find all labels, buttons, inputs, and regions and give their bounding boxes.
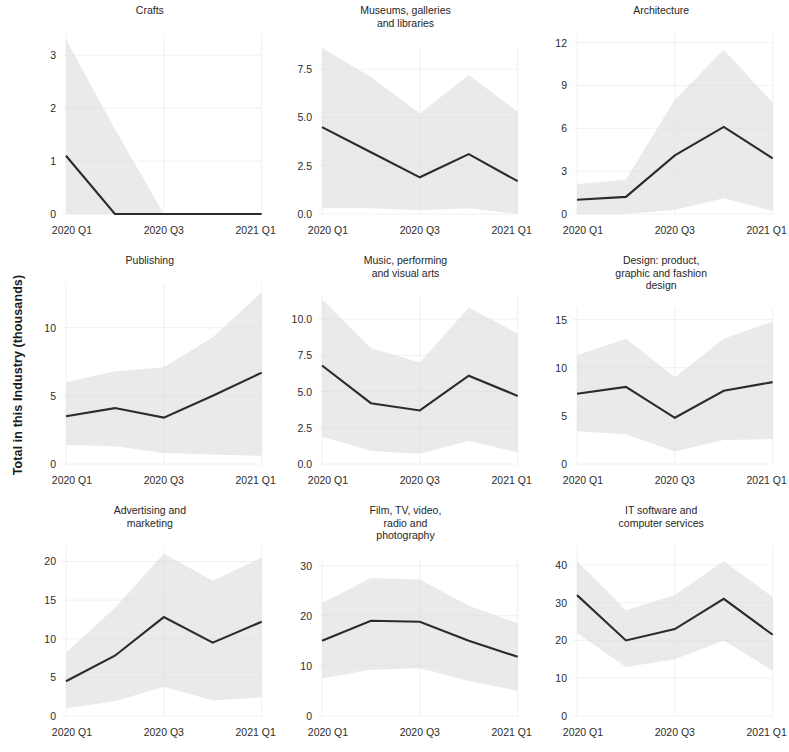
panel-plot: 0369122020 Q12020 Q32021 Q1 [533, 0, 789, 250]
x-tick-label: 2020 Q3 [144, 475, 184, 486]
chart-panel: Advertising and marketing051015202020 Q1… [22, 500, 278, 752]
panel-plot: 051015202020 Q12020 Q32021 Q1 [22, 500, 278, 752]
y-tick-label: 12 [556, 37, 568, 49]
x-tick-label: 2020 Q1 [52, 727, 92, 738]
chart-panel: Crafts01232020 Q12020 Q32021 Q1 [22, 0, 278, 250]
x-tick-label: 2021 Q1 [236, 225, 276, 236]
x-tick-label: 2020 Q3 [655, 726, 695, 738]
y-tick-label: 40 [556, 559, 568, 571]
x-tick-label: 2020 Q3 [399, 224, 439, 236]
y-tick-label: 0.0 [297, 458, 312, 470]
y-tick-label: 5.0 [297, 111, 312, 123]
confidence-band [66, 554, 262, 709]
panel-plot: 0510152020 Q12020 Q32021 Q1 [533, 250, 789, 500]
panel-plot: 05102020 Q12020 Q32021 Q1 [22, 250, 278, 500]
y-tick-label: 10 [556, 362, 568, 374]
x-tick-label: 2021 Q1 [491, 474, 531, 486]
chart-panel: Design: product, graphic and fashion des… [533, 250, 789, 500]
x-tick-label: 2020 Q1 [563, 726, 603, 738]
y-tick-label: 20 [44, 556, 56, 567]
y-tick-label: 0 [50, 459, 56, 470]
x-tick-label: 2020 Q1 [52, 475, 92, 486]
chart-panel: Museums, galleries and libraries0.02.55.… [278, 0, 534, 250]
y-tick-label: 2 [50, 103, 56, 114]
chart-panel: Music, performing and visual arts0.02.55… [278, 250, 534, 500]
x-tick-label: 2020 Q3 [655, 224, 695, 236]
y-tick-label: 5 [561, 410, 567, 422]
y-tick-label: 15 [556, 314, 568, 326]
x-tick-label: 2020 Q1 [563, 474, 603, 486]
chart-panel: Film, TV, video, radio and photography01… [278, 500, 534, 752]
x-tick-label: 2020 Q1 [308, 474, 348, 486]
y-tick-label: 7.5 [297, 63, 312, 75]
x-tick-label: 2021 Q1 [236, 727, 276, 738]
panel-plot: 0.02.55.07.52020 Q12020 Q32021 Q1 [278, 0, 534, 250]
x-tick-label: 2021 Q1 [747, 474, 787, 486]
x-tick-label: 2021 Q1 [491, 726, 531, 738]
y-tick-label: 1 [50, 156, 56, 167]
y-tick-label: 2.5 [297, 422, 312, 434]
x-tick-label: 2020 Q3 [144, 727, 184, 738]
chart-panel: Architecture0369122020 Q12020 Q32021 Q1 [533, 0, 789, 250]
y-tick-label: 5.0 [297, 386, 312, 398]
y-tick-label: 5 [50, 672, 56, 683]
x-tick-label: 2021 Q1 [236, 475, 276, 486]
x-tick-label: 2020 Q1 [308, 224, 348, 236]
y-tick-label: 0.0 [297, 208, 312, 220]
y-tick-label: 10 [556, 672, 568, 684]
y-tick-label: 0 [561, 208, 567, 220]
x-tick-label: 2020 Q3 [399, 726, 439, 738]
x-tick-label: 2020 Q1 [52, 225, 92, 236]
y-tick-label: 10.0 [291, 313, 312, 325]
y-tick-label: 3 [50, 50, 56, 61]
panel-plot: 0.02.55.07.510.02020 Q12020 Q32021 Q1 [278, 250, 534, 500]
y-tick-label: 10 [300, 660, 312, 672]
y-tick-label: 30 [556, 597, 568, 609]
chart-panel: Publishing05102020 Q12020 Q32021 Q1 [22, 250, 278, 500]
y-tick-label: 10 [44, 634, 56, 645]
y-tick-label: 30 [300, 560, 312, 572]
y-tick-label: 3 [561, 165, 567, 177]
x-tick-label: 2021 Q1 [747, 224, 787, 236]
x-tick-label: 2021 Q1 [491, 224, 531, 236]
y-tick-label: 0 [561, 458, 567, 470]
x-tick-label: 2021 Q1 [747, 726, 787, 738]
y-tick-label: 10 [44, 323, 56, 334]
y-tick-label: 20 [300, 610, 312, 622]
panel-plot: 01232020 Q12020 Q32021 Q1 [22, 0, 278, 250]
figure-small-multiples-line-chart: Total in this Industry (thousands) Craft… [0, 0, 789, 752]
x-tick-label: 2020 Q3 [144, 225, 184, 236]
y-tick-label: 5 [50, 391, 56, 402]
y-tick-label: 2.5 [297, 160, 312, 172]
y-tick-label: 0 [50, 711, 56, 722]
x-tick-label: 2020 Q1 [308, 726, 348, 738]
x-tick-label: 2020 Q1 [563, 224, 603, 236]
y-tick-label: 7.5 [297, 349, 312, 361]
x-tick-label: 2020 Q3 [655, 474, 695, 486]
y-tick-label: 20 [556, 634, 568, 646]
y-tick-label: 0 [561, 710, 567, 722]
y-tick-label: 6 [561, 122, 567, 134]
x-tick-label: 2020 Q3 [399, 474, 439, 486]
panel-plot: 0102030402020 Q12020 Q32021 Q1 [533, 500, 789, 752]
y-tick-label: 15 [44, 595, 56, 606]
panel-plot: 01020302020 Q12020 Q32021 Q1 [278, 500, 534, 752]
y-tick-label: 9 [561, 79, 567, 91]
y-tick-label: 0 [50, 209, 56, 220]
chart-panel: IT software and computer services0102030… [533, 500, 789, 752]
panel-grid: Crafts01232020 Q12020 Q32021 Q1Museums, … [22, 0, 789, 752]
y-tick-label: 0 [306, 710, 312, 722]
